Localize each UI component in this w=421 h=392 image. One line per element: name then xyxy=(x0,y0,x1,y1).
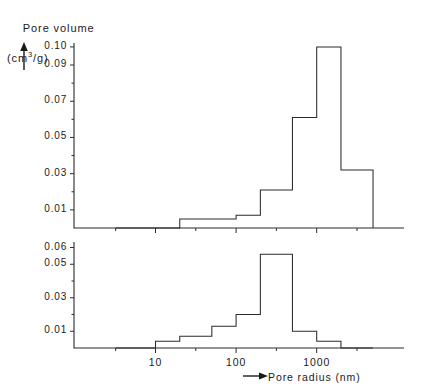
top-panel-bars xyxy=(116,47,373,228)
xtick-1000: 1000 xyxy=(287,356,347,368)
bottom-panel-ytick-0.06: 0.06 xyxy=(44,241,67,252)
bottom-panel-axes xyxy=(74,242,404,348)
up-arrow-icon xyxy=(20,42,28,70)
top-panel xyxy=(70,43,404,233)
bottom-panel-ytick-0.05: 0.05 xyxy=(44,257,67,268)
xtick-100: 100 xyxy=(206,356,266,368)
top-panel-ytick-0.10: 0.10 xyxy=(44,40,67,51)
bottom-panel-ytick-0.03: 0.03 xyxy=(44,291,67,302)
right-arrow-icon xyxy=(243,372,268,379)
top-panel-ticks xyxy=(70,47,357,233)
bottom-panel-bars xyxy=(116,254,373,348)
xtick-10: 10 xyxy=(126,356,186,368)
top-panel-ytick-0.07: 0.07 xyxy=(44,94,67,105)
top-panel-ytick-0.03: 0.03 xyxy=(44,167,67,178)
top-panel-ytick-0.09: 0.09 xyxy=(44,58,67,69)
top-panel-ytick-0.01: 0.01 xyxy=(44,203,67,214)
pore-volume-figure: Pore volume (cm3/g) Pore radius (nm) 0.0… xyxy=(0,0,421,392)
top-panel-axes xyxy=(74,43,404,228)
bottom-panel-ytick-0.01: 0.01 xyxy=(44,324,67,335)
top-panel-ytick-0.05: 0.05 xyxy=(44,130,67,141)
bottom-panel-ticks xyxy=(70,248,357,353)
bottom-panel xyxy=(70,242,404,353)
